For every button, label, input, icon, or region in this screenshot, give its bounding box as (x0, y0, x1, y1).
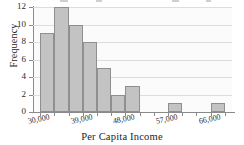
histogram-bar (40, 33, 54, 112)
x-axis-tick (69, 112, 70, 116)
histogram-chart: 024681012 30,00039,00048,00057,00066,000… (0, 0, 244, 145)
x-axis-tick-label: 39,000 (70, 112, 93, 125)
x-axis-tick-label: 57,000 (155, 112, 178, 125)
histogram-bar (97, 68, 111, 112)
cropped-title-remnant-3 (172, 0, 179, 2)
histogram-bar (111, 95, 125, 113)
x-axis-tick-label: 48,000 (112, 112, 135, 125)
x-axis-tick-label: 30,000 (27, 112, 50, 125)
y-axis-tick-label: 0 (0, 107, 26, 116)
histogram-bar (54, 7, 68, 112)
cropped-title-remnant-2 (96, 0, 102, 2)
y-axis-tick (29, 25, 33, 26)
cropped-title-remnant-1 (60, 0, 68, 2)
x-axis-tick (196, 112, 197, 116)
y-axis-tick (29, 77, 33, 78)
x-axis-tick-label: 66,000 (198, 112, 221, 125)
histogram-bar (125, 86, 139, 112)
y-axis-tick (29, 60, 33, 61)
y-axis-tick (29, 7, 33, 8)
histogram-bar (168, 103, 182, 112)
histogram-bar (69, 25, 83, 113)
y-axis-title: Frequency (8, 10, 19, 82)
y-axis-tick (29, 95, 33, 96)
histogram-bar (211, 103, 225, 112)
x-axis-tick (140, 112, 141, 116)
cropped-title-remnant-4 (206, 0, 211, 2)
y-axis-tick-label: 2 (0, 90, 26, 99)
x-axis-line (33, 112, 235, 113)
x-axis-tick (97, 112, 98, 116)
x-axis-tick (154, 112, 155, 116)
x-axis-tick (182, 112, 183, 116)
x-axis-tick (111, 112, 112, 116)
x-axis-title: Per Capita Income (0, 131, 244, 142)
x-axis-tick (54, 112, 55, 116)
histogram-bar (83, 42, 97, 112)
y-axis-tick (29, 112, 33, 113)
x-axis-tick (225, 112, 226, 116)
y-axis-tick (29, 42, 33, 43)
